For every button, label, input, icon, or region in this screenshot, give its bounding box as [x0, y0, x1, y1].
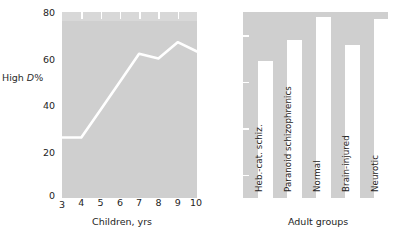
bar-y-tick-left-10: [243, 175, 249, 177]
bar-label-heb-cat-schiz: Heb.-cat. schiz.: [254, 124, 264, 192]
y-tick-label-80: 80: [33, 7, 55, 18]
x-tick-label-6: 6: [117, 197, 123, 208]
bar-chart-plot-area: Heb.-cat. schiz. Paranoid schizophrenics…: [243, 12, 388, 198]
figure-root: 80 60 40 20 0 High D% 3 4 5 6 7 8 9 10 C…: [0, 0, 412, 241]
x-tick-label-5: 5: [98, 197, 104, 208]
bar-label-brain-injured: Brain-injured: [341, 135, 351, 192]
y-tick-label-20: 20: [33, 147, 55, 158]
line-chart-plot-area: [62, 12, 197, 198]
x-tick-label-10: 10: [190, 197, 202, 208]
bar-y-tick-left-50: [243, 82, 249, 84]
y-tick-label-40: 40: [33, 100, 55, 111]
y-tick-label-60: 60: [33, 54, 55, 65]
bar-label-neurotic: Neurotic: [370, 155, 380, 192]
x-tick-label-4: 4: [78, 197, 84, 208]
line-series-path: [62, 12, 197, 198]
y-axis-title: High D%: [2, 72, 43, 83]
x-tick-label-3: 3: [59, 199, 65, 210]
y-tick-label-0: 0: [42, 190, 55, 201]
x-tick-label-9: 9: [175, 197, 181, 208]
x-axis-title-adult-groups: Adult groups: [288, 216, 348, 227]
bar-label-paranoid-schizophrenics: Paranoid schizophrenics: [283, 86, 293, 192]
x-axis-title-children: Children, yrs: [92, 216, 152, 227]
x-tick-label-8: 8: [155, 197, 161, 208]
y-axis-title-prefix: High: [2, 72, 27, 83]
bar-y-tick-left-70: [243, 35, 249, 37]
bar-y-tick-80: [388, 12, 394, 14]
y-axis-title-suffix: %: [34, 72, 43, 83]
x-tick-label-7: 7: [136, 197, 142, 208]
bar-label-normal: Normal: [312, 160, 322, 192]
bar-y-tick-left-30: [243, 128, 249, 130]
